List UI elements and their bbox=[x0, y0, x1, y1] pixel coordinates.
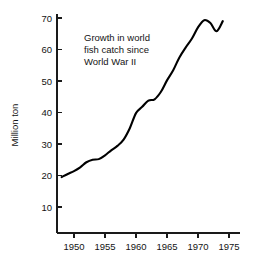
x-axis-tick-labels: 1950 1955 1960 1965 1970 1975 bbox=[63, 241, 239, 252]
y-axis-ticks bbox=[57, 18, 62, 207]
y-tick-label: 50 bbox=[41, 76, 52, 87]
fish-catch-chart: 70 60 50 40 30 20 10 1950 1955 1960 1965… bbox=[0, 0, 263, 266]
annotation-line-2: fish catch since bbox=[84, 44, 149, 55]
x-tick-label: 1975 bbox=[218, 241, 239, 252]
chart-annotation: Growth in world fish catch since World W… bbox=[84, 32, 150, 67]
y-axis-title: Million ton bbox=[9, 104, 20, 147]
y-tick-label: 40 bbox=[41, 107, 52, 118]
y-axis-tick-labels: 70 60 50 40 30 20 10 bbox=[41, 13, 52, 213]
annotation-line-3: World War II bbox=[84, 56, 136, 67]
x-tick-label: 1970 bbox=[187, 241, 208, 252]
x-tick-label: 1950 bbox=[63, 241, 84, 252]
y-tick-label: 20 bbox=[41, 170, 52, 181]
x-axis-ticks bbox=[74, 233, 229, 238]
x-tick-label: 1965 bbox=[156, 241, 177, 252]
y-tick-label: 30 bbox=[41, 139, 52, 150]
y-tick-label: 10 bbox=[41, 202, 52, 213]
y-tick-label: 60 bbox=[41, 44, 52, 55]
x-tick-label: 1960 bbox=[125, 241, 146, 252]
chart-canvas: 70 60 50 40 30 20 10 1950 1955 1960 1965… bbox=[0, 0, 263, 266]
x-tick-label: 1955 bbox=[94, 241, 115, 252]
annotation-line-1: Growth in world bbox=[84, 32, 150, 43]
y-tick-label: 70 bbox=[41, 13, 52, 24]
